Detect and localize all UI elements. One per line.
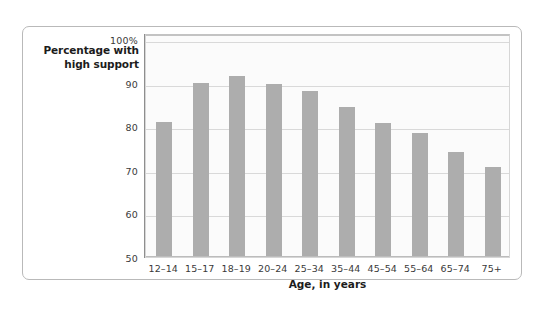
bar (193, 83, 209, 256)
bar (302, 91, 318, 256)
y-axis-title-line-2: high support (21, 58, 139, 72)
bar (375, 123, 391, 256)
bar (412, 133, 428, 256)
bar (485, 167, 501, 256)
bar (339, 107, 355, 256)
plot-area (145, 34, 510, 258)
bar (156, 122, 172, 256)
y-tick-label: 80 (78, 122, 138, 133)
y-tick-label: 90 (78, 79, 138, 90)
y-tick-label: 70 (78, 166, 138, 177)
y-axis-title-line-1: Percentage with (21, 44, 139, 58)
y-tick-label: 50 (78, 253, 138, 264)
chart-figure: Percentage with high support 100%9080706… (22, 26, 522, 280)
x-axis-baseline (146, 256, 509, 257)
bar (448, 152, 464, 256)
y-axis-title: Percentage with high support (21, 44, 139, 71)
bar (229, 76, 245, 256)
x-axis-title: Age, in years (145, 278, 510, 290)
bar (266, 84, 282, 256)
x-tick-label: 75+ (469, 263, 515, 274)
y-tick-label: 100% (78, 35, 138, 46)
gridline (146, 42, 509, 43)
y-tick-label: 60 (78, 209, 138, 220)
